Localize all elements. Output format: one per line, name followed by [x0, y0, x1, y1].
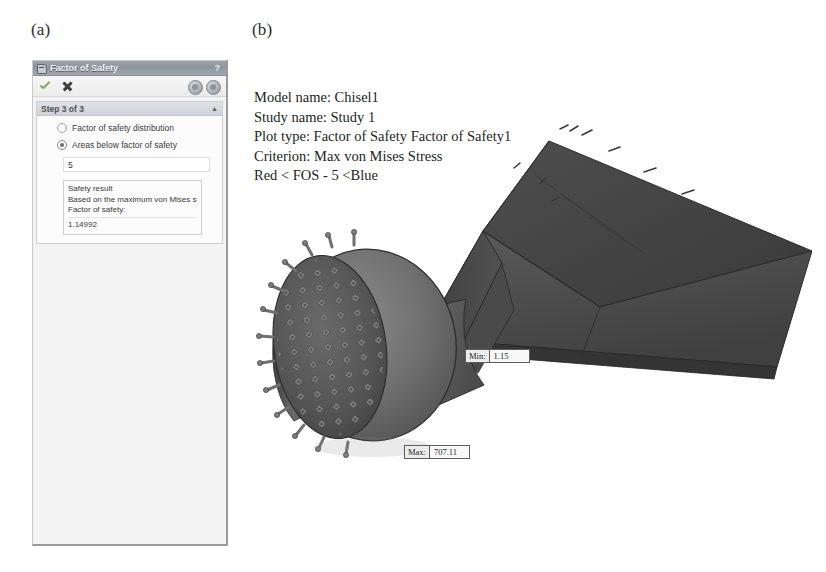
max-callout-value: 707.11	[430, 446, 469, 458]
panel-toolbar	[33, 76, 226, 97]
panel-title: Factor of Safety	[50, 63, 215, 73]
subfigure-label-b: (b)	[252, 20, 272, 40]
radio-dot-areas-below[interactable]	[57, 140, 67, 150]
chevron-up-icon[interactable]: ▲	[211, 105, 218, 112]
safety-result-basis: Based on the maximum von Mises st	[68, 195, 197, 206]
step-group-body: Factor of safety distribution Areas belo…	[37, 116, 222, 243]
radio-option-areas-below[interactable]: Areas below factor of safety	[43, 140, 216, 150]
radio-label-distribution: Factor of safety distribution	[72, 123, 174, 133]
factor-of-safety-input[interactable]: 5	[63, 157, 210, 172]
step-group-box: Step 3 of 3 ▲ Factor of safety distribut…	[36, 101, 223, 244]
close-x-icon[interactable]	[60, 78, 76, 94]
safety-result-title: Safety result	[68, 184, 197, 195]
radio-label-areas-below: Areas below factor of safety	[72, 140, 177, 150]
safety-result-factor-label: Factor of safety:	[68, 205, 197, 216]
safety-result-factor-value: 1.14992	[68, 217, 197, 230]
help-button[interactable]: ?	[215, 63, 224, 73]
radio-option-distribution[interactable]: Factor of safety distribution	[43, 123, 216, 133]
green-check-icon[interactable]	[38, 78, 54, 94]
max-callout-key: Max:	[405, 446, 430, 458]
studded-drum-chisel-model[interactable]	[252, 55, 812, 555]
help-circle-icon[interactable]	[206, 80, 221, 95]
step-group-header[interactable]: Step 3 of 3 ▲	[37, 102, 222, 116]
subfigure-label-a: (a)	[31, 20, 50, 40]
fea-plot-region: Model name: Chisel1 Study name: Study 1 …	[252, 55, 812, 555]
panel-titlebar[interactable]: Factor of Safety ?	[33, 61, 226, 76]
step-group-label: Step 3 of 3	[41, 104, 211, 114]
safety-result-box: Safety result Based on the maximum von M…	[63, 180, 202, 235]
radio-dot-distribution[interactable]	[57, 123, 67, 133]
max-value-callout: Max: 707.11	[404, 445, 470, 459]
model-geometry	[252, 55, 812, 555]
min-value-callout: Min: 1.15	[465, 349, 530, 363]
min-callout-value: 1.15	[490, 350, 529, 362]
factor-of-safety-icon	[36, 63, 47, 74]
factor-of-safety-panel: Factor of Safety ? Step 3 of 3 ▲ Factor …	[32, 60, 228, 546]
gear-circle-icon[interactable]	[188, 80, 203, 95]
min-callout-key: Min:	[466, 350, 490, 362]
